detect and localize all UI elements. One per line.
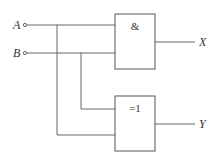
output-x-label: X [198, 35, 207, 49]
input-a-terminal-icon [23, 23, 26, 26]
logic-circuit-diagram: & =1 A B X Y [0, 0, 217, 161]
xor-gate-symbol: =1 [129, 102, 141, 114]
input-b-label: B [13, 46, 21, 60]
output-y-label: Y [199, 117, 207, 131]
input-b-terminal-icon [23, 51, 26, 54]
and-gate-symbol: & [131, 20, 140, 32]
input-a-label: A [12, 18, 21, 32]
wire-a-to-xor [57, 25, 115, 135]
wire-b-to-xor [81, 53, 115, 109]
